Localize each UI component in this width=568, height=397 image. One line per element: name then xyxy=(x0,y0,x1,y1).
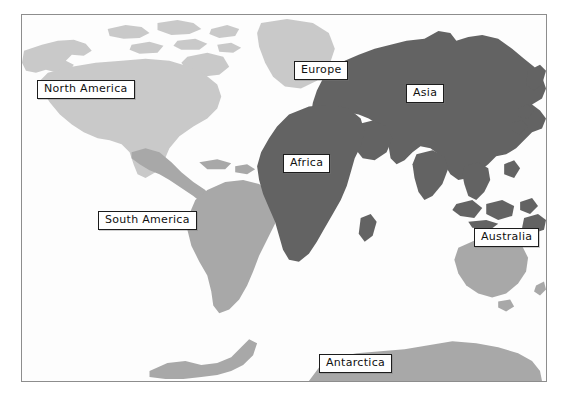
world-map-graphic xyxy=(22,15,546,381)
map-label-europe[interactable]: Europe xyxy=(294,61,348,80)
world-map-page: North America South America Europe Asia … xyxy=(0,0,568,397)
map-label-south-america-text: South America xyxy=(105,213,190,226)
map-label-north-america[interactable]: North America xyxy=(37,80,135,99)
map-label-africa[interactable]: Africa xyxy=(283,154,330,173)
map-frame: North America South America Europe Asia … xyxy=(21,14,547,382)
map-label-antarctica[interactable]: Antarctica xyxy=(319,354,392,373)
map-label-africa-text: Africa xyxy=(290,156,323,169)
map-label-asia[interactable]: Asia xyxy=(406,84,444,103)
map-label-australia-text: Australia xyxy=(481,230,532,243)
map-label-antarctica-text: Antarctica xyxy=(326,356,385,369)
map-label-asia-text: Asia xyxy=(413,86,437,99)
map-label-north-america-text: North America xyxy=(44,82,128,95)
map-label-south-america[interactable]: South America xyxy=(98,211,197,230)
page-title xyxy=(0,0,568,11)
map-label-europe-text: Europe xyxy=(301,63,341,76)
map-label-australia[interactable]: Australia xyxy=(474,228,539,247)
